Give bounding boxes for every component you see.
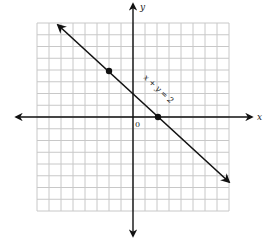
origin-label: 0	[135, 120, 140, 129]
coordinate-plane-figure: y x 0 x + y = 2	[0, 0, 273, 245]
x-axis-label: x	[257, 112, 262, 122]
equation-line	[58, 25, 229, 182]
y-axis-label: y	[139, 2, 146, 12]
point-neg2-4	[106, 68, 112, 74]
point-2-0	[155, 114, 161, 120]
graph-svg: y x 0 x + y = 2	[0, 0, 273, 245]
equation-label: x + y = 2	[142, 73, 176, 105]
